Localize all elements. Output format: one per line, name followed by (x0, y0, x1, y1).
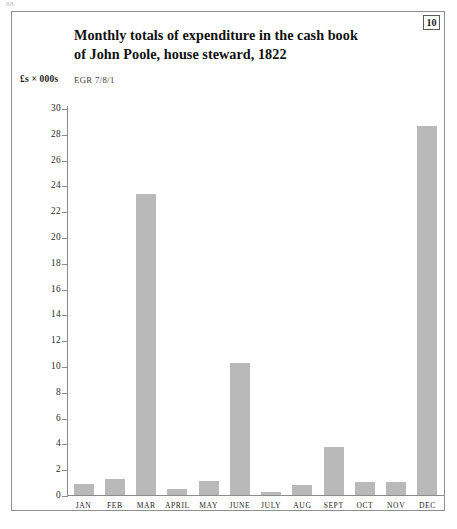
bar-june[interactable] (230, 363, 250, 495)
y-axis-tick-label: 0 (56, 490, 61, 500)
y-axis-tick-label: 22 (51, 206, 61, 216)
plot-area: 302826242220181614121086420 (67, 109, 443, 496)
x-axis-label-sept: SEPT (318, 501, 349, 510)
bar-sept[interactable] (324, 447, 344, 495)
bar-feb[interactable] (105, 479, 125, 495)
y-axis-tick-label: 10 (51, 361, 61, 371)
bar-mar[interactable] (136, 194, 156, 495)
y-axis-tick-label: 28 (51, 129, 61, 139)
figure-number-badge: 10 (423, 15, 440, 30)
bars-layer (68, 108, 443, 495)
y-axis-tick-label: 30 (51, 103, 61, 113)
x-axis-label-june: JUNE (224, 501, 255, 510)
x-axis-label-dec: DEC (412, 501, 443, 510)
bar-slot (381, 108, 412, 495)
bar-slot (256, 108, 287, 495)
bar-slot (224, 108, 255, 495)
y-axis-tick-label: 12 (51, 335, 61, 345)
bar-slot (68, 108, 99, 495)
chart-title-line-2: of John Poole, house steward, 1822 (74, 45, 414, 64)
y-axis-tick-label: 4 (56, 438, 61, 448)
figure-frame: 10 Monthly totals of expenditure in the … (11, 11, 445, 511)
bar-slot (318, 108, 349, 495)
bar-slot (131, 108, 162, 495)
y-axis-tick: 0 (67, 496, 68, 497)
chart-title: Monthly totals of expenditure in the cas… (74, 26, 414, 64)
bar-oct[interactable] (355, 482, 375, 495)
bar-slot (193, 108, 224, 495)
y-axis-tick-label: 8 (56, 387, 61, 397)
running-page-number: 88 (6, 0, 14, 8)
x-axis-label-aug: AUG (287, 501, 318, 510)
y-axis-tick-label: 24 (51, 180, 61, 190)
bar-slot (99, 108, 130, 495)
bar-nov[interactable] (386, 482, 406, 495)
y-axis-tick-label: 26 (51, 155, 61, 165)
bar-slot (412, 108, 443, 495)
bar-april[interactable] (167, 489, 187, 495)
chart-title-line-1: Monthly totals of expenditure in the cas… (74, 26, 414, 45)
bar-dec[interactable] (417, 126, 437, 495)
x-axis-label-july: JULY (256, 501, 287, 510)
x-axis-label-jan: JAN (68, 501, 99, 510)
bar-may[interactable] (199, 481, 219, 495)
y-axis-tick-label: 2 (56, 464, 61, 474)
y-axis-tick-label: 14 (51, 309, 61, 319)
bar-jan[interactable] (74, 484, 94, 495)
x-axis-label-may: MAY (193, 501, 224, 510)
bar-slot (349, 108, 380, 495)
x-axis-label-oct: OCT (349, 501, 380, 510)
source-reference: EGR 7/8/1 (74, 75, 115, 85)
bar-july[interactable] (261, 492, 281, 495)
bar-aug[interactable] (292, 485, 312, 495)
y-axis-unit-label: £s × 000s (20, 74, 58, 84)
y-axis-tick-label: 18 (51, 258, 61, 268)
x-axis-label-mar: MAR (131, 501, 162, 510)
x-axis-label-feb: FEB (99, 501, 130, 510)
x-axis-label-nov: NOV (381, 501, 412, 510)
bar-slot (287, 108, 318, 495)
x-axis-labels: JANFEBMARAPRILMAYJUNEJULYAUGSEPTOCTNOVDE… (68, 501, 443, 510)
y-axis-tick-mark (62, 496, 68, 497)
bar-slot (162, 108, 193, 495)
y-axis-tick-label: 6 (56, 413, 61, 423)
x-axis-label-april: APRIL (162, 501, 193, 510)
x-axis-line (67, 495, 445, 496)
y-axis-tick-label: 20 (51, 232, 61, 242)
y-axis-tick-label: 16 (51, 284, 61, 294)
